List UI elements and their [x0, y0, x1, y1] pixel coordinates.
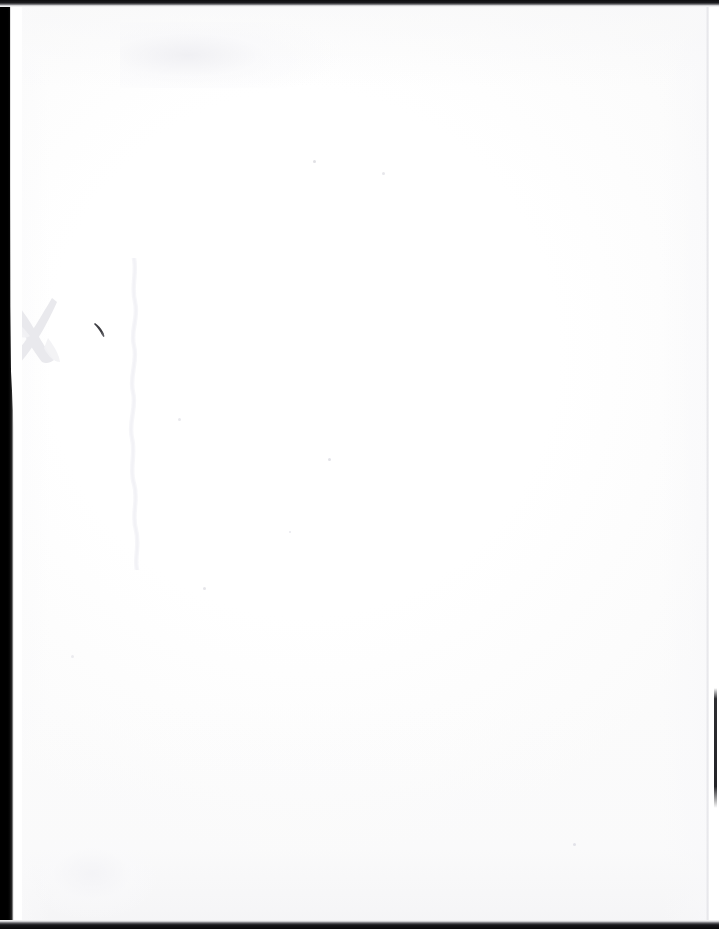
scanned-page [0, 0, 719, 929]
scan-border-bottom [0, 920, 719, 929]
scan-border-top [0, 0, 719, 7]
right-page-edge [706, 5, 709, 922]
right-page-edge-dark-segment [714, 688, 717, 808]
paper-sheet [9, 5, 709, 922]
